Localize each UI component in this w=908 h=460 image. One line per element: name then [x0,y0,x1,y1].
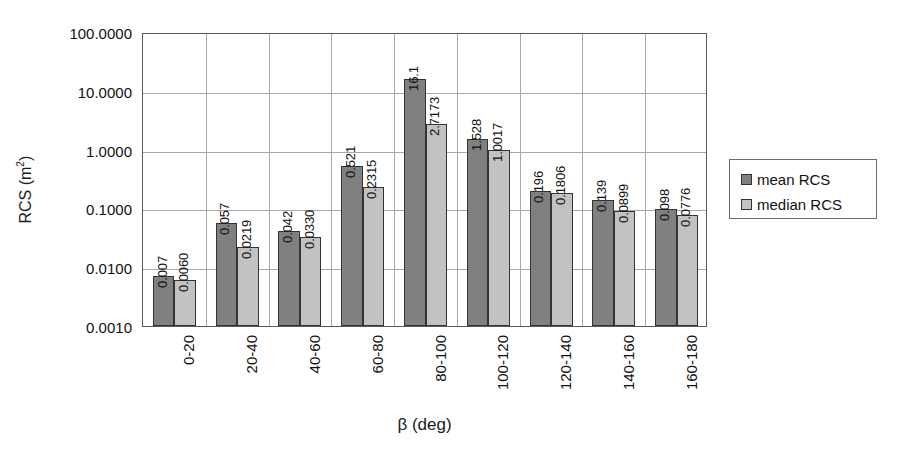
plot-area: 0.0070.00600.0570.02190.0420.03300.5210.… [142,33,707,327]
bar-mean [592,200,614,326]
bar-mean [530,191,552,326]
bar-median [488,150,510,326]
bar-median [614,211,636,326]
bar-mean [467,139,489,326]
y-axis-tick-label: 0.0010 [0,319,132,336]
bar-value-label: 0.521 [343,146,358,178]
category-gridline [206,34,207,326]
bar-value-label: 0.0330 [302,210,317,249]
y-axis-tick-label: 0.0100 [0,260,132,277]
y-axis-tick-label: 10.0000 [0,83,132,100]
category-gridline [457,34,458,326]
bar-value-label: 0.042 [280,211,295,243]
bar-value-label: 0.098 [657,189,672,221]
bar-mean [404,79,426,326]
bar-value-label: 2.7173 [427,97,442,136]
bar-value-label: 0.0060 [176,253,191,292]
y-axis-title-superscript: 2 [15,161,26,167]
bar-value-label: 16.1 [406,66,421,91]
legend-label-median: median RCS [757,196,842,213]
category-gridline [582,34,583,326]
bar-value-label: 0.0899 [616,184,631,223]
bar-value-label: 0.057 [217,203,232,235]
x-axis-tick-label: 140-160 [620,335,637,390]
category-gridline [645,34,646,326]
x-axis-tick-label: 20-40 [243,335,260,373]
x-axis-tick-label: 40-60 [306,335,323,373]
bar-mean [278,231,300,326]
rcs-bar-chart: RCS (m2) 100.000010.00001.00000.10000.01… [0,0,908,460]
category-gridline [520,34,521,326]
x-axis-tick-label: 120-140 [557,335,574,390]
bar-median [551,193,573,326]
bar-median [300,237,322,326]
bar-median [677,215,699,326]
bar-value-label: 0.139 [594,180,609,212]
category-gridline [331,34,332,326]
y-axis-title: RCS (m2) [15,105,34,275]
x-axis-title: β (deg) [142,415,707,435]
chart-legend: mean RCS median RCS [729,159,877,219]
x-axis-tick-label: 60-80 [369,335,386,373]
category-gridline [394,34,395,326]
bar-value-label: 1.0017 [490,122,505,161]
x-axis-tick-label: 100-120 [494,335,511,390]
y-axis-tick-label: 1.0000 [0,142,132,159]
y-axis-tick-label: 0.1000 [0,201,132,218]
category-gridline [269,34,270,326]
x-axis-tick-label: 0-20 [180,335,197,365]
bar-mean [655,209,677,326]
bar-value-label: 0.1806 [553,166,568,205]
y-axis-tick-label: 100.0000 [0,25,132,42]
legend-swatch-mean-icon [741,174,752,185]
x-axis-tick-label: 160-180 [683,335,700,390]
bar-median [363,187,385,326]
bar-mean [341,166,363,326]
bar-value-label: 0.007 [155,256,170,288]
bar-median [237,247,259,326]
legend-item-median: median RCS [741,192,876,217]
bar-value-label: 0.196 [531,171,546,203]
legend-item-mean: mean RCS [741,167,876,192]
bar-mean [216,223,238,326]
bar-median [426,124,448,326]
legend-swatch-median-icon [741,199,752,210]
legend-label-mean: mean RCS [757,171,830,188]
bar-value-label: 0.2315 [364,160,379,199]
bar-value-label: 0.0219 [239,220,254,259]
bar-value-label: 1.528 [469,119,484,151]
bar-value-label: 0.0776 [678,188,693,227]
x-axis-tick-label: 80-100 [432,335,449,382]
